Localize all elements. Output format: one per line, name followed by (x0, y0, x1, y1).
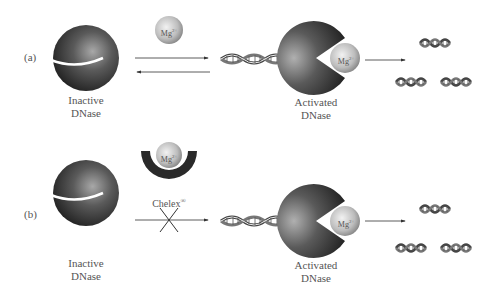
mg-text: Mg (161, 155, 172, 164)
dna-fragment-icon (441, 79, 471, 86)
dna-fragment-icon (420, 206, 450, 213)
label-line1: Inactive (56, 94, 116, 107)
label-line1: Inactive (56, 257, 116, 270)
registered-mark: ® (181, 197, 186, 205)
row-b (51, 142, 471, 258)
label-line2: DNase (56, 107, 116, 120)
dna-fragment-icon (396, 79, 426, 86)
chelex-text: Chelex (152, 198, 180, 209)
mg-charge: 2+ (349, 56, 354, 61)
mg-ion-label: Mg2+ (156, 24, 182, 40)
mg-text: Mg (338, 57, 349, 66)
label-line1: Activated (286, 96, 346, 109)
dna-fragment-icon (396, 245, 426, 252)
label-line2: DNase (286, 272, 346, 285)
mg-bound-label: Mg2+ (333, 215, 359, 231)
row-a (51, 16, 471, 95)
inactive-dnase-label: Inactive DNase (56, 94, 116, 120)
mg-charge: 2+ (349, 219, 354, 224)
chelex-label: Chelex® (139, 195, 199, 210)
panel-label-b: (b) (24, 208, 37, 220)
panel-label-a: (a) (24, 51, 36, 63)
activated-dnase-label: Activated DNase (286, 259, 346, 285)
activated-dnase-label: Activated DNase (286, 96, 346, 122)
inactive-dnase-label: Inactive DNase (56, 257, 116, 283)
label-line1: Activated (286, 259, 346, 272)
dna-fragment-icon (441, 245, 471, 252)
diagram-canvas (0, 0, 501, 294)
inactive-dnase-icon (51, 25, 119, 91)
label-line2: DNase (56, 270, 116, 283)
mg-charge: 2+ (172, 154, 177, 159)
chelex-mg-label: Mg2+ (156, 150, 182, 166)
mg-charge: 2+ (172, 28, 177, 33)
mg-text: Mg (338, 220, 349, 229)
mg-bound-label: Mg2+ (333, 52, 359, 68)
inactive-dnase-icon (51, 160, 119, 226)
label-line2: DNase (286, 109, 346, 122)
dna-fragment-icon (420, 40, 450, 47)
mg-text: Mg (161, 29, 172, 38)
